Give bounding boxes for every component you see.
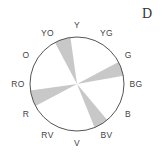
hue-label-bv: BV <box>101 130 113 140</box>
shaded-wedge <box>77 84 107 128</box>
hue-label-ro: RO <box>11 79 24 89</box>
hue-label-bg: BG <box>130 79 143 89</box>
hue-label-g: G <box>125 50 132 60</box>
hue-label-y: Y <box>74 20 80 30</box>
hue-label-v: V <box>74 138 80 148</box>
hue-label-rv: RV <box>41 130 53 140</box>
shaded-wedge <box>77 62 123 84</box>
hue-label-yo: YO <box>41 28 54 38</box>
hue-label-yg: YG <box>100 28 113 38</box>
color-wheel <box>0 0 162 156</box>
shaded-wedge <box>55 37 77 84</box>
hue-label-o: O <box>22 50 29 60</box>
shaded-wedge <box>30 84 77 106</box>
shaded-wedges <box>30 37 123 127</box>
hue-label-r: R <box>23 109 29 119</box>
hue-label-b: B <box>125 109 131 119</box>
